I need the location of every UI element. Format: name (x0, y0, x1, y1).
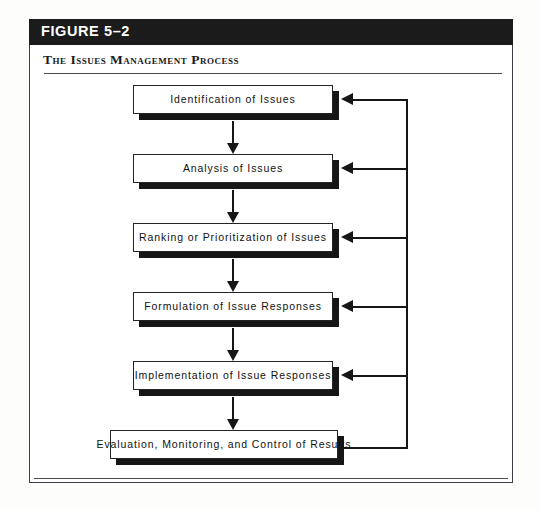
rule-bottom-divider (34, 478, 508, 479)
process-box-label: Implementation of Issue Responses (135, 370, 332, 381)
feedback-branch-line (352, 306, 408, 308)
process-box-label: Evaluation, Monitoring, and Control of R… (97, 439, 352, 450)
figure-subtitle: The Issues Management Process (43, 52, 239, 68)
arrow-head (227, 143, 239, 154)
arrow-stem (232, 121, 234, 144)
arrow-stem (232, 397, 234, 420)
feedback-arrow-head (341, 93, 353, 105)
figure-title-bar: FIGURE 5–2 (29, 19, 513, 45)
feedback-branch-line (352, 375, 408, 377)
process-box[interactable]: Analysis of Issues (133, 154, 333, 183)
process-box-label: Ranking or Prioritization of Issues (139, 232, 327, 243)
process-box[interactable]: Identification of Issues (133, 85, 333, 114)
arrow-head (227, 419, 239, 430)
process-box[interactable]: Formulation of Issue Responses (133, 292, 333, 321)
figure-container: FIGURE 5–2 The Issues Management Process… (0, 0, 539, 509)
feedback-source-connector (344, 447, 408, 449)
feedback-branch-line (352, 237, 408, 239)
arrow-stem (232, 190, 234, 213)
arrow-head (227, 212, 239, 223)
process-box-label: Identification of Issues (170, 94, 296, 105)
process-box-label: Analysis of Issues (183, 163, 283, 174)
process-box[interactable]: Implementation of Issue Responses (133, 361, 333, 390)
flow-arrow-down (227, 121, 240, 154)
rule-top-divider (44, 73, 502, 74)
arrow-head (227, 281, 239, 292)
feedback-arrow-head (341, 369, 353, 381)
process-box-label: Formulation of Issue Responses (144, 301, 322, 312)
flow-arrow-down (227, 259, 240, 292)
arrow-stem (232, 259, 234, 282)
arrow-head (227, 350, 239, 361)
process-box[interactable]: Evaluation, Monitoring, and Control of R… (110, 430, 338, 459)
figure-number-label: FIGURE 5–2 (41, 23, 130, 39)
flow-arrow-down (227, 190, 240, 223)
feedback-trunk-line (406, 99, 408, 449)
feedback-arrow-head (341, 300, 353, 312)
process-box[interactable]: Ranking or Prioritization of Issues (133, 223, 333, 252)
arrow-stem (232, 328, 234, 351)
flow-arrow-down (227, 397, 240, 430)
feedback-branch-line (352, 168, 408, 170)
feedback-arrow-head (341, 231, 353, 243)
flow-arrow-down (227, 328, 240, 361)
feedback-branch-line (352, 99, 408, 101)
feedback-arrow-head (341, 162, 353, 174)
